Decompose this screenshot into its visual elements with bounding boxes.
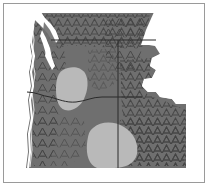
thematic-map (0, 0, 209, 187)
map-figure (0, 0, 209, 187)
white-cut-southeast (186, 104, 192, 172)
texture-band-south (31, 114, 86, 166)
